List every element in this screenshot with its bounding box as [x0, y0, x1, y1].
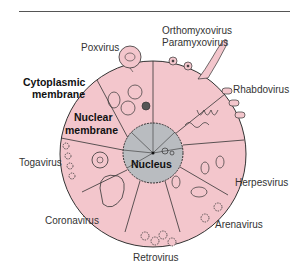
label-rhabdovirus: Rhabdovirus	[233, 84, 289, 95]
label-cytoplasmic-membrane-2: membrane	[32, 89, 85, 100]
label-nucleus: Nucleus	[131, 159, 172, 170]
label-poxvirus: Poxvirus	[81, 42, 119, 53]
label-arenavirus: Arenavirus	[215, 219, 263, 230]
label-nuclear-membrane-1: Nuclear	[74, 112, 113, 123]
label-paramyxovirus: Paramyxovirus	[162, 37, 228, 48]
label-cytoplasmic-membrane-1: Cytoplasmic	[23, 77, 85, 88]
virus-cell-diagram	[0, 0, 308, 275]
label-nuclear-membrane-2: membrane	[65, 125, 118, 136]
label-retrovirus: Retrovirus	[133, 252, 179, 263]
label-togavirus: Togavirus	[19, 157, 62, 168]
label-orthomyxovirus: Orthomyxovirus	[162, 25, 232, 36]
label-coronavirus: Coronavirus	[45, 215, 99, 226]
label-herpesvirus: Herpesvirus	[235, 177, 288, 188]
